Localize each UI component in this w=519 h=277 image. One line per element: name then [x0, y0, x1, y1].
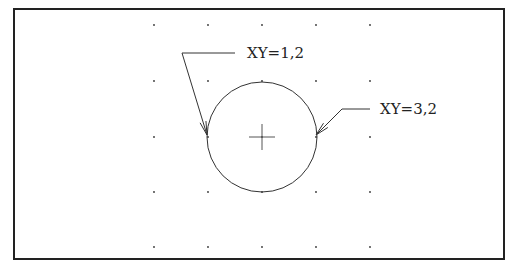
grid-dot — [315, 246, 317, 248]
callout-label-1: XY=1,2 — [247, 44, 304, 62]
grid-dot — [369, 191, 371, 193]
grid-dot — [153, 136, 155, 138]
grid-dot — [315, 24, 317, 26]
grid-dot — [369, 136, 371, 138]
grid-dot — [315, 80, 317, 82]
grid-dot — [261, 24, 263, 26]
leader-line — [316, 109, 370, 135]
grid-dot — [153, 24, 155, 26]
callout-label-2: XY=3,2 — [380, 100, 437, 118]
grid-dot — [369, 80, 371, 82]
grid-dot — [315, 191, 317, 193]
grid-dot — [207, 191, 209, 193]
grid-dot — [207, 246, 209, 248]
grid-dot — [153, 246, 155, 248]
grid-dot — [207, 24, 209, 26]
grid-dot — [153, 80, 155, 82]
grid-dot — [207, 80, 209, 82]
grid-dot — [261, 246, 263, 248]
callouts — [182, 53, 370, 135]
grid-dot — [369, 246, 371, 248]
grid-dot — [369, 24, 371, 26]
diagram-canvas: XY=1,2 XY=3,2 — [0, 0, 519, 277]
grid-dot — [153, 191, 155, 193]
center-mark — [249, 124, 275, 150]
